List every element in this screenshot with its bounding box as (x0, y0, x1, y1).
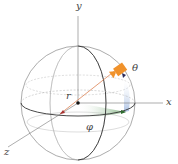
polar-angle-label: θ (132, 63, 138, 73)
x-axis-label: x (166, 97, 172, 107)
polar-arrowhead (122, 73, 126, 78)
azimuth-angle-label: φ (86, 122, 93, 132)
sphere-figure (0, 0, 178, 164)
origin-point (76, 101, 80, 105)
spherical-coordinates-diagram: y x z r θ φ (0, 0, 178, 164)
radius-label: r (66, 91, 71, 101)
y-axis-label: y (76, 1, 82, 11)
z-axis (8, 103, 78, 147)
z-axis-label: z (4, 147, 9, 157)
